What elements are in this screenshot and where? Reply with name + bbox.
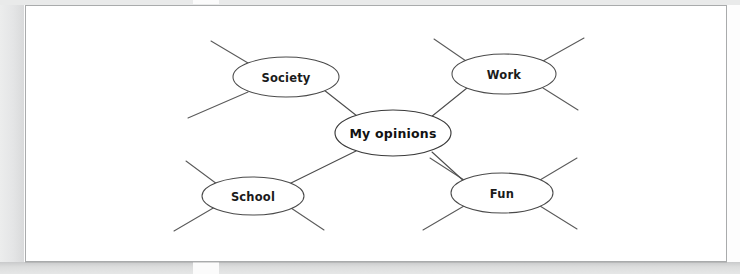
node-label-society: Society	[261, 71, 310, 85]
node-school[interactable]: School	[202, 177, 304, 215]
node-my-opinions[interactable]: My opinions	[335, 110, 451, 156]
spoke-work-3	[543, 88, 578, 110]
scan-margin-bottom-gap	[193, 262, 219, 274]
scan-margin-bottom	[0, 262, 740, 274]
spoke-society-1	[211, 41, 248, 63]
node-label-school: School	[231, 190, 275, 204]
spoke-work-1	[434, 39, 466, 61]
connector-work-to-my-opinions	[431, 88, 467, 117]
spoke-school-3	[291, 208, 324, 230]
spoke-school-1	[186, 161, 217, 184]
spoke-work-2	[543, 38, 584, 61]
node-label-my-opinions: My opinions	[349, 126, 436, 141]
scan-margin-left	[0, 0, 24, 274]
connector-fun-to-my-opinions	[432, 152, 466, 183]
node-fun[interactable]: Fun	[451, 173, 553, 213]
mind-map-diagram: SocietyWorkSchoolFun My opinions	[26, 6, 728, 263]
node-work[interactable]: Work	[452, 54, 556, 94]
worksheet-page: SocietyWorkSchoolFun My opinions	[25, 5, 727, 262]
center-node-group: My opinions	[335, 110, 451, 156]
connector-school-to-my-opinions	[289, 151, 356, 184]
spoke-fun-4	[540, 206, 577, 229]
spoke-fun-2	[423, 206, 464, 230]
connector-society-to-my-opinions	[324, 90, 357, 116]
node-label-fun: Fun	[490, 187, 514, 201]
spoke-society-2	[188, 92, 248, 118]
node-society[interactable]: Society	[233, 57, 339, 97]
scanned-page-area: SocietyWorkSchoolFun My opinions	[0, 0, 740, 274]
spoke-fun-3	[540, 158, 577, 180]
node-label-work: Work	[487, 68, 521, 82]
spoke-school-2	[174, 207, 215, 231]
scan-margin-top-gap	[193, 0, 219, 4]
